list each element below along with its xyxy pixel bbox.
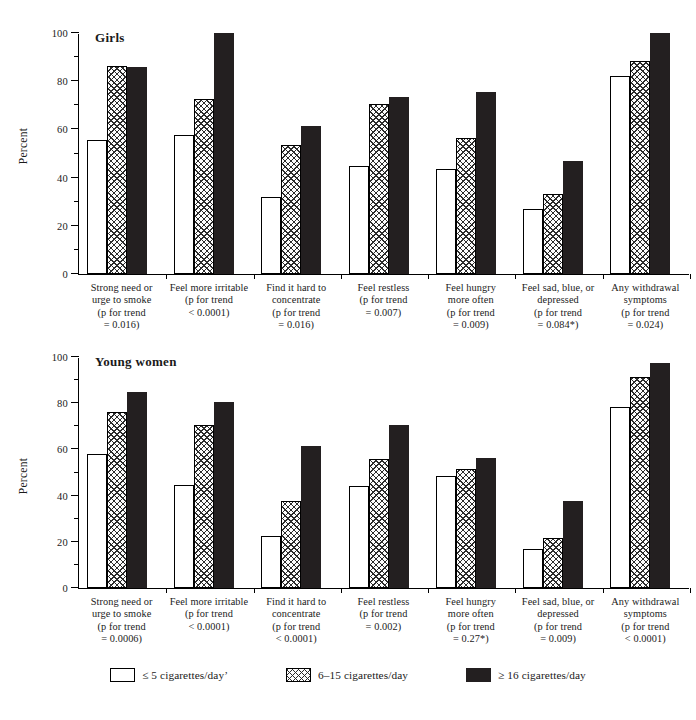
legend-label-1: 6–15 cigarettes/day [318, 669, 408, 681]
bar [369, 459, 389, 588]
x-axis-tick [690, 588, 691, 593]
y-axis-tick-label: 20 [57, 221, 68, 232]
bar [650, 33, 670, 274]
bar [261, 197, 281, 274]
plot-area-girls: 020406080100 [78, 34, 689, 275]
x-axis-tick [166, 274, 167, 279]
bar [523, 549, 543, 588]
y-axis-tick-major [71, 177, 79, 178]
bar [436, 169, 456, 274]
x-axis-tick [166, 588, 167, 593]
legend-swatch-black-icon [466, 668, 491, 682]
y-axis-tick-minor [74, 104, 79, 105]
bar [369, 104, 389, 274]
y-axis-tick-label: 0 [63, 583, 68, 594]
y-axis-title-young-women: Percent [17, 446, 29, 506]
bar [630, 377, 650, 588]
bar [194, 425, 214, 588]
y-axis-title-girls: Percent [17, 116, 29, 176]
bar [610, 407, 630, 588]
y-axis-tick-minor [74, 56, 79, 57]
legend-swatch-white-icon [110, 668, 135, 682]
bar [107, 412, 127, 588]
bar [349, 166, 369, 274]
x-axis-tick [603, 274, 604, 279]
bar [563, 161, 583, 274]
bar [630, 61, 650, 274]
chart-legend: ≤ 5 cigarettes/day’ 6–15 cigarettes/day … [0, 668, 696, 698]
bar [214, 402, 234, 588]
bar [476, 92, 496, 274]
y-axis-tick-label: 20 [57, 537, 68, 548]
y-axis-tick-minor [74, 564, 79, 565]
chart-panel-young-women: Percent Young women 020406080100 Strong … [0, 345, 696, 660]
bar [389, 425, 409, 588]
y-axis-tick-major [71, 448, 79, 449]
x-axis-tick [428, 588, 429, 593]
y-axis-tick-major [71, 356, 79, 357]
y-axis-tick-label: 60 [57, 124, 68, 135]
y-axis-tick-minor [74, 472, 79, 473]
legend-item-2: ≥ 16 cigarettes/day [466, 668, 586, 682]
bar [456, 138, 476, 274]
bar [456, 469, 476, 588]
bar [349, 486, 369, 588]
bar [214, 33, 234, 274]
x-axis-tick [254, 274, 255, 279]
bar [87, 454, 107, 588]
bar [563, 501, 583, 588]
bar [476, 458, 496, 589]
x-axis-tick [341, 274, 342, 279]
x-axis-tick [341, 588, 342, 593]
bar [543, 194, 563, 274]
y-axis-tick-label: 100 [52, 352, 68, 363]
bar [436, 476, 456, 588]
y-axis-tick-minor [74, 249, 79, 250]
y-axis-tick-label: 80 [57, 76, 68, 87]
bar [174, 485, 194, 588]
legend-swatch-crosshatch-icon [286, 668, 311, 682]
legend-item-1: 6–15 cigarettes/day [286, 668, 408, 682]
chart-panel-girls: Percent Girls 020406080100 Strong need o… [0, 0, 696, 345]
x-axis-category-label: Any withdrawal symptoms (p for trend = 0… [594, 282, 696, 332]
y-axis-tick-major [71, 80, 79, 81]
y-axis-tick-label: 80 [57, 398, 68, 409]
y-axis-tick-minor [74, 518, 79, 519]
y-axis-tick-label: 0 [63, 269, 68, 280]
x-axis-tick [603, 588, 604, 593]
y-axis-tick-major [71, 495, 79, 496]
x-axis-category-label: Any withdrawal symptoms (p for trend < 0… [594, 596, 696, 646]
bar [87, 140, 107, 274]
y-axis-tick-label: 40 [57, 173, 68, 184]
y-axis-tick-minor [74, 153, 79, 154]
x-axis-tick [428, 274, 429, 279]
y-axis-tick-major [71, 32, 79, 33]
x-axis-tick [690, 274, 691, 279]
figure-withdrawal-symptoms: Percent Girls 020406080100 Strong need o… [0, 0, 696, 720]
y-axis-tick-major [71, 273, 79, 274]
bar [174, 135, 194, 274]
bar [610, 76, 630, 274]
bar [523, 209, 543, 274]
y-axis-tick-label: 100 [52, 28, 68, 39]
bar [301, 126, 321, 274]
y-axis-tick-minor [74, 201, 79, 202]
bar [543, 538, 563, 588]
bar [127, 67, 147, 274]
legend-label-0: ≤ 5 cigarettes/day’ [142, 669, 228, 681]
y-axis-tick-major [71, 225, 79, 226]
plot-area-young-women: 020406080100 [78, 358, 689, 589]
legend-label-2: ≥ 16 cigarettes/day [498, 669, 586, 681]
bar [389, 97, 409, 274]
bar [261, 536, 281, 588]
legend-item-0: ≤ 5 cigarettes/day’ [110, 668, 228, 682]
bar [194, 99, 214, 274]
bar [301, 446, 321, 588]
bar [281, 501, 301, 588]
bar [281, 145, 301, 274]
x-axis-tick [515, 588, 516, 593]
bar [107, 66, 127, 274]
y-axis-tick-major [71, 402, 79, 403]
y-axis-tick-label: 60 [57, 444, 68, 455]
x-axis-tick [515, 274, 516, 279]
